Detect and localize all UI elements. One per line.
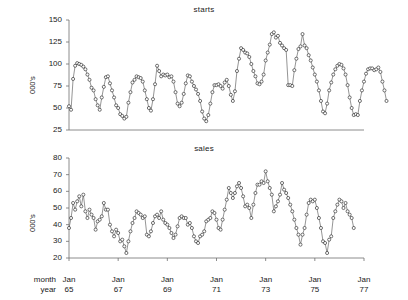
x-tick-year: 75 — [295, 285, 335, 295]
x-tick-label: Jan73 — [246, 275, 286, 294]
x-tick-year: 69 — [147, 285, 187, 295]
x-tick-label: Jan65 — [49, 275, 89, 294]
x-tick-month: Jan — [49, 275, 89, 285]
x-tick-year: 77 — [344, 285, 384, 295]
x-tick-year: 65 — [49, 285, 89, 295]
y-tick-label: 50 — [32, 104, 62, 112]
x-tick-year: 73 — [246, 285, 286, 295]
y-tick-label: 30 — [32, 237, 62, 245]
x-tick-year: 71 — [197, 285, 237, 295]
y-tick-label: 80 — [32, 154, 62, 162]
y-tick-label: 100 — [32, 60, 62, 68]
x-tick-month: Jan — [197, 275, 237, 285]
chart-page: starts 000's 255075100125150 sales 000's… — [0, 0, 408, 300]
x-tick-label: Jan71 — [197, 275, 237, 294]
y-tick-label: 150 — [32, 16, 62, 24]
panel-starts: starts 000's 255075100125150 — [0, 0, 408, 140]
x-tick-month: Jan — [344, 275, 384, 285]
x-tick-month: Jan — [295, 275, 335, 285]
y-tick-label: 60 — [32, 187, 62, 195]
y-tick-label: 125 — [32, 38, 62, 46]
x-tick-label: Jan69 — [147, 275, 187, 294]
x-tick-label: Jan77 — [344, 275, 384, 294]
y-tick-label: 25 — [32, 126, 62, 134]
y-tick-label: 20 — [32, 254, 62, 262]
x-tick-year: 67 — [98, 285, 138, 295]
x-tick-label: Jan75 — [295, 275, 335, 294]
x-tick-month: Jan — [147, 275, 187, 285]
y-tick-label: 50 — [32, 204, 62, 212]
y-tick-label: 70 — [32, 171, 62, 179]
x-tick-month: Jan — [98, 275, 138, 285]
x-tick-label: Jan67 — [98, 275, 138, 294]
x-tick-month: Jan — [246, 275, 286, 285]
y-tick-label: 40 — [32, 221, 62, 229]
y-tick-label: 75 — [32, 82, 62, 90]
